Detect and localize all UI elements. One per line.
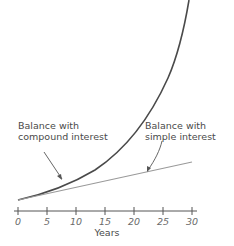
simple-annotation-line2: simple interest <box>145 131 216 142</box>
x-axis-label: Years <box>93 227 119 238</box>
x-tick-label: 15 <box>99 216 111 227</box>
compound-interest-curve <box>18 0 189 200</box>
x-tick-label: 25 <box>157 216 169 227</box>
x-tick-label: 10 <box>70 216 82 227</box>
compound-arrow-icon <box>44 152 62 180</box>
simple-interest-line <box>18 162 192 200</box>
x-axis <box>14 207 197 215</box>
chart: 0 5 10 15 20 25 30 Years Balance with co… <box>0 0 234 246</box>
compound-annotation-line2: compound interest <box>18 131 108 142</box>
simple-arrow-icon <box>147 141 162 172</box>
compound-annotation-line1: Balance with <box>18 120 79 131</box>
x-tick-label: 5 <box>44 216 50 227</box>
x-tick-label: 20 <box>128 216 140 227</box>
x-tick-label: 30 <box>186 216 198 227</box>
x-tick-label: 0 <box>15 216 21 227</box>
simple-annotation-line1: Balance with <box>145 120 206 131</box>
